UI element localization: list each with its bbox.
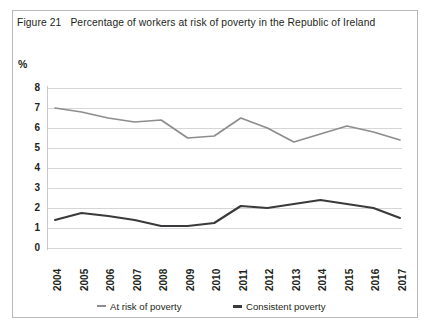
legend-dash-consistent-icon [233, 305, 242, 307]
x-tick-label-2008: 2008 [158, 269, 169, 291]
x-tick-label-2015: 2015 [344, 269, 355, 291]
chart-legend: At risk of poverty Consistent poverty [0, 300, 429, 316]
x-tick-label-2005: 2005 [79, 269, 90, 291]
x-tick-label-2009: 2009 [185, 269, 196, 291]
x-tick-label-2010: 2010 [211, 269, 222, 291]
legend-label-consistent: Consistent poverty [246, 301, 325, 312]
x-tick-label-2013: 2013 [291, 269, 302, 291]
series-line-consistent-poverty [55, 200, 400, 226]
legend-item-at-risk-of-poverty: At risk of poverty [97, 301, 181, 312]
x-tick-label-2014: 2014 [317, 269, 328, 291]
x-tick-label-2011: 2011 [238, 269, 249, 291]
x-tick-label-2007: 2007 [132, 269, 143, 291]
x-tick-label-2004: 2004 [52, 269, 63, 291]
x-tick-label-2017: 2017 [397, 269, 408, 291]
chart-plot-area: 876543210 200420052006200720082009201020… [0, 0, 429, 331]
legend-item-consistent-poverty: Consistent poverty [233, 301, 325, 312]
series-line-at-risk-of-poverty [55, 108, 400, 142]
x-tick-label-2006: 2006 [105, 269, 116, 291]
x-tick-label-2012: 2012 [264, 269, 275, 291]
legend-dash-at-risk-icon [97, 305, 106, 307]
legend-label-at-risk: At risk of poverty [110, 301, 181, 312]
x-tick-label-2016: 2016 [370, 269, 381, 291]
